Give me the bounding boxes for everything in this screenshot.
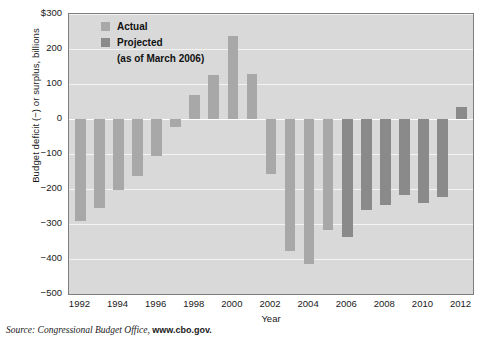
y-tick-label: −400: [4, 252, 62, 263]
bar-2002: [266, 119, 277, 174]
x-tick-label: 1996: [145, 298, 166, 309]
bar-1999: [208, 75, 219, 119]
bar-1994: [113, 119, 124, 190]
bar-2005: [323, 119, 334, 230]
legend-item-projected: Projected: [101, 35, 204, 49]
bar-1993: [94, 119, 105, 208]
y-tick-label: 100: [4, 77, 62, 88]
x-axis-tick-labels: 1992199419961998200020022004200620082010…: [68, 298, 474, 314]
legend-note-row: (as of March 2006): [101, 51, 204, 65]
bar-1995: [132, 119, 143, 176]
y-tick-label: 200: [4, 42, 62, 53]
x-tick-label: 2004: [298, 298, 319, 309]
bar-1996: [151, 119, 162, 156]
bar-2012: [456, 107, 467, 119]
bar-1997: [170, 119, 181, 127]
source-note: Source: Congressional Budget Office, www…: [6, 325, 212, 335]
legend-swatch-projected-icon: [101, 38, 110, 47]
gridline: [69, 294, 473, 295]
source-url: www.cbo.gov.: [152, 325, 212, 335]
bar-2003: [285, 119, 296, 251]
bar-2004: [304, 119, 315, 264]
bar-2001: [247, 74, 258, 119]
bar-1992: [75, 119, 86, 221]
bar-2009: [399, 119, 410, 195]
y-tick-label: 0: [4, 112, 62, 123]
figure: Budget deficit (−) or surplus, billions …: [0, 0, 495, 341]
x-tick-label: 1992: [69, 298, 90, 309]
x-tick-label: 1998: [183, 298, 204, 309]
source-prefix: Source: Congressional Budget Office,: [6, 325, 152, 335]
y-tick-label: −500: [4, 287, 62, 298]
x-tick-label: 2006: [336, 298, 357, 309]
y-tick-label: −100: [4, 147, 62, 158]
legend-note: (as of March 2006): [117, 53, 204, 64]
x-tick-label: 1994: [107, 298, 128, 309]
bar-2007: [361, 119, 372, 210]
y-tick-label: −200: [4, 182, 62, 193]
legend: Actual Projected (as of March 2006): [101, 19, 204, 67]
bar-2010: [418, 119, 429, 203]
legend-label-projected: Projected: [117, 37, 163, 48]
x-tick-label: 2002: [259, 298, 280, 309]
x-tick-label: 2010: [412, 298, 433, 309]
y-tick-label: −300: [4, 217, 62, 228]
bar-2008: [380, 119, 391, 205]
bar-2006: [342, 119, 353, 237]
y-tick-label: $300: [4, 7, 62, 18]
bar-2000: [228, 36, 239, 119]
x-tick-label: 2012: [450, 298, 471, 309]
legend-swatch-actual-icon: [101, 22, 110, 31]
legend-item-actual: Actual: [101, 19, 204, 33]
bar-1998: [189, 95, 200, 119]
x-tick-label: 2000: [221, 298, 242, 309]
legend-label-actual: Actual: [117, 21, 148, 32]
x-axis-title: Year: [68, 313, 474, 324]
x-tick-label: 2008: [374, 298, 395, 309]
bar-2011: [437, 119, 448, 197]
